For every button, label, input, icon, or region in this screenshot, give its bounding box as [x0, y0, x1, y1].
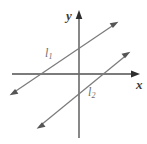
line-l1-segment: [14, 25, 114, 93]
y-axis-label: y: [66, 9, 72, 22]
line-l1: [10, 22, 119, 96]
line-l2-label: l2: [88, 86, 96, 100]
line-l2-label-subscript: 2: [92, 91, 96, 100]
line-l1-label-subscript: 1: [49, 52, 53, 61]
line-l2-label-base: l: [88, 85, 91, 99]
line-l1-label-base: l: [45, 46, 48, 60]
x-axis-label: x: [136, 78, 143, 91]
line-l1-label: l1: [45, 47, 53, 61]
coordinate-plane-graphic: [0, 0, 147, 144]
parallel-lines-figure: y x l1 l2: [0, 0, 147, 144]
x-axis: [12, 71, 140, 78]
y-axis-arrowhead-icon: [76, 10, 83, 19]
line-l2: [37, 52, 131, 129]
